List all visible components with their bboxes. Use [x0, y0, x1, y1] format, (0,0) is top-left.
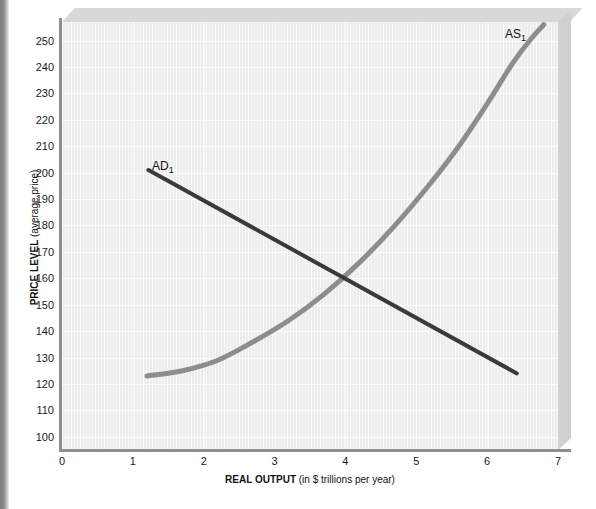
aggregate-supply-curve-label: AS1 [505, 27, 526, 43]
y-axis-title-rest: (average price) [29, 170, 40, 240]
x-tick-0: 0 [47, 455, 77, 467]
x-tick-3: 3 [260, 455, 290, 467]
x-tick-6: 6 [472, 455, 502, 467]
aggregate-demand-curve [148, 170, 517, 373]
panel-right-bevel [558, 10, 571, 450]
aggregate-demand-curve-label: AD1 [152, 159, 174, 175]
y-axis-line [59, 18, 62, 452]
curve-layer [62, 22, 558, 450]
x-axis-title: REAL OUTPUT (in $ trillions per year) [62, 474, 558, 485]
y-tick-240: 240 [14, 61, 54, 73]
x-axis-title-rest: (in $ trillions per year) [296, 474, 395, 485]
y-axis-title-bold: PRICE LEVEL [29, 240, 40, 306]
as-label-subscript: 1 [521, 33, 526, 43]
x-tick-1: 1 [118, 455, 148, 467]
y-tick-120: 120 [14, 378, 54, 390]
panel-top-bevel [62, 8, 583, 22]
y-tick-230: 230 [14, 87, 54, 99]
x-axis-line [59, 449, 571, 452]
x-tick-4: 4 [330, 455, 360, 467]
y-tick-220: 220 [14, 114, 54, 126]
y-tick-100: 100 [14, 431, 54, 443]
ad-label-text: AD [152, 159, 169, 173]
x-tick-7: 7 [543, 455, 573, 467]
y-tick-250: 250 [14, 35, 54, 47]
x-tick-2: 2 [189, 455, 219, 467]
x-axis-title-bold: REAL OUTPUT [225, 474, 296, 485]
plot-area [62, 22, 558, 450]
ad-label-subscript: 1 [169, 165, 174, 175]
x-tick-5: 5 [401, 455, 431, 467]
y-axis-title: PRICE LEVEL (average price) [29, 128, 40, 348]
y-tick-110: 110 [14, 404, 54, 416]
y-tick-130: 130 [14, 352, 54, 364]
as-label-text: AS [505, 27, 521, 41]
chart-figure: 1001101201301401501601701801902002102202… [0, 0, 596, 509]
